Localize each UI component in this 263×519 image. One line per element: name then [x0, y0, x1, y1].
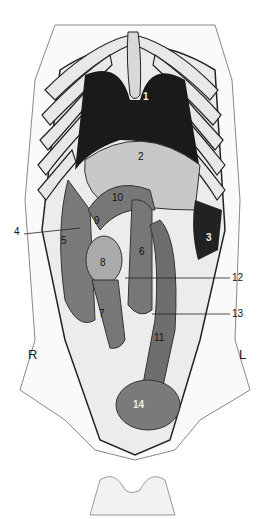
- label-4: 4: [14, 227, 20, 237]
- label-8: 8: [100, 258, 106, 268]
- label-14: 14: [133, 400, 144, 410]
- xiphoid: [127, 32, 140, 99]
- label-3: 3: [206, 233, 212, 243]
- label-6: 6: [139, 247, 145, 257]
- label-2: 2: [138, 152, 144, 162]
- label-11: 11: [154, 333, 164, 343]
- label-12: 12: [232, 273, 243, 283]
- label-1: 1: [143, 92, 149, 102]
- side-marker-left: L: [239, 347, 246, 362]
- anatomy-illustration: [0, 0, 263, 519]
- label-13: 13: [232, 309, 243, 319]
- label-7: 7: [99, 309, 105, 319]
- label-10: 10: [112, 193, 123, 203]
- label-5: 5: [61, 236, 67, 246]
- chin: [90, 477, 175, 515]
- organ-14: [116, 380, 180, 430]
- side-marker-right: R: [28, 347, 37, 362]
- label-9: 9: [94, 216, 100, 226]
